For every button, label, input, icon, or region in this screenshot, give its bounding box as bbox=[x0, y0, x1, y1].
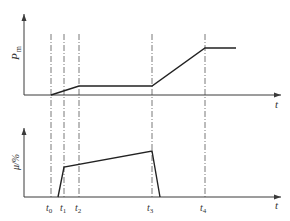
label-t3: t3 bbox=[147, 202, 154, 215]
label-t1: t1 bbox=[60, 202, 67, 215]
time-marker-labels: t0 t1 t2 t3 t4 bbox=[46, 202, 207, 215]
time-marker-guides bbox=[51, 34, 205, 197]
lower-y-label: μ/% bbox=[10, 154, 21, 171]
upper-y-label: Pm bbox=[9, 45, 23, 61]
upper-plot: Pm t bbox=[9, 14, 281, 110]
label-t0: t0 bbox=[46, 202, 53, 215]
upper-x-label: t bbox=[275, 98, 279, 110]
timing-diagram: Pm t μ/% t t0 t1 t2 t3 t4 bbox=[0, 0, 290, 221]
label-t4: t4 bbox=[200, 202, 207, 215]
efficiency-curve bbox=[58, 151, 160, 197]
lower-x-label: t bbox=[275, 199, 279, 211]
label-t2: t2 bbox=[75, 202, 82, 215]
